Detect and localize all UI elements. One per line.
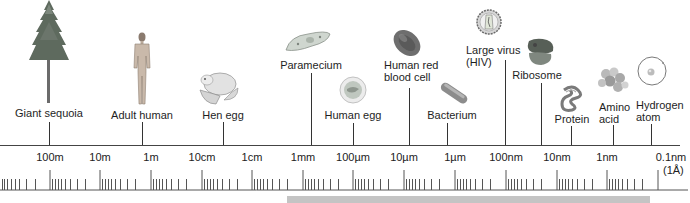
hydrogen-atom-icon [637, 56, 667, 86]
label-amino-line2: acid [599, 113, 630, 125]
microscope-range-bar [287, 196, 650, 203]
pointer-human-red-blood-cell [409, 88, 410, 145]
bacterium-icon [437, 80, 469, 106]
scale-label-10um: 10µm [390, 151, 418, 163]
label-virus-line2: (HIV) [466, 56, 520, 68]
paramecium-icon [282, 26, 334, 56]
label-hen-egg: Hen egg [202, 109, 244, 121]
scale-label-1um: 1µm [444, 151, 466, 163]
scale-label-1cm: 1cm [242, 151, 263, 163]
giant-sequoia-icon [26, 0, 72, 104]
human-egg-icon [339, 76, 367, 104]
label-ribosome: Ribosome [512, 69, 562, 81]
pointer-hydrogen-atom [651, 124, 652, 145]
object-baseline [0, 145, 680, 146]
scale-label-10nm: 10nm [543, 151, 571, 163]
pointer-amino-acid [613, 125, 614, 145]
pointer-protein [571, 126, 572, 145]
label-large-virus: Large virus (HIV) [466, 44, 520, 68]
scale-label-100um: 100µm [336, 151, 370, 163]
label-rbc-line1: Human red [384, 59, 438, 71]
scale-label-10cm: 10cm [189, 151, 216, 163]
scale-label-1nm: 1nm [596, 151, 617, 163]
label-amino-line1: Amino [599, 101, 630, 113]
scale-label-100nm: 100nm [489, 151, 523, 163]
scale-label-0-1nm: 0.1nm [656, 151, 687, 163]
scale-label-1mm: 1mm [291, 151, 315, 163]
red-blood-cell-icon [390, 29, 424, 57]
pointer-bacterium [447, 123, 448, 145]
pointer-adult-human [142, 122, 143, 145]
log-scale-ruler [0, 166, 690, 191]
ribosome-icon [523, 37, 557, 67]
hen-egg-icon [194, 70, 244, 108]
pointer-human-egg [353, 123, 354, 145]
amino-acid-icon [596, 66, 630, 96]
label-hydrogen-line2: atom [636, 111, 684, 123]
label-paramecium: Paramecium [280, 59, 342, 71]
pointer-ribosome [541, 83, 542, 145]
label-amino-acid: Amino acid [599, 101, 630, 125]
label-bacterium: Bacterium [427, 109, 477, 121]
large-virus-icon [476, 3, 502, 41]
label-human-egg: Human egg [325, 109, 382, 121]
scale-label-10m: 10m [89, 151, 110, 163]
protein-icon [558, 84, 586, 112]
label-virus-line1: Large virus [466, 44, 520, 56]
pointer-hen-egg [223, 122, 224, 145]
pointer-large-virus [505, 60, 506, 145]
adult-human-icon [130, 32, 154, 106]
scale-label-100m: 100m [36, 151, 64, 163]
pointer-giant-sequoia [49, 122, 50, 145]
label-adult-human: Adult human [111, 109, 173, 121]
label-human-red-blood-cell: Human red blood cell [384, 59, 438, 83]
label-hydrogen-atom: Hydrogen atom [636, 99, 684, 123]
scale-label-1m: 1m [143, 151, 158, 163]
label-rbc-line2: blood cell [384, 71, 438, 83]
label-hydrogen-line1: Hydrogen [636, 99, 684, 111]
label-protein: Protein [555, 113, 590, 125]
label-giant-sequoia: Giant sequoia [15, 107, 83, 119]
pointer-paramecium [311, 73, 312, 145]
